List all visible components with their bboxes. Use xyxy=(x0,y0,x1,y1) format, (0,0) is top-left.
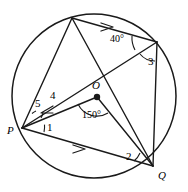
angle-arc-2 xyxy=(134,153,140,161)
label-point-o: O xyxy=(92,80,100,91)
geometry-figure: P Q O 1 2 3 4 5 40° 150° xyxy=(0,0,188,192)
center-point-dot xyxy=(94,94,100,100)
angle-arc-1 xyxy=(44,125,45,132)
chord-p-q xyxy=(22,128,153,166)
angle-arc-5 xyxy=(32,111,36,114)
geometry-canvas xyxy=(0,0,188,192)
angle-measure-40: 40° xyxy=(110,34,124,44)
angle-label-2: 2 xyxy=(126,151,132,162)
angle-arc-40 xyxy=(132,36,135,50)
angle-label-5: 5 xyxy=(35,98,41,109)
angle-label-3: 3 xyxy=(148,56,154,67)
angle-label-4: 4 xyxy=(50,90,56,101)
label-point-p: P xyxy=(7,125,14,136)
label-point-q: Q xyxy=(158,170,166,181)
angle-measure-150: 150° xyxy=(82,110,101,120)
segment-o-q xyxy=(97,97,153,166)
angle-label-1: 1 xyxy=(47,122,53,133)
